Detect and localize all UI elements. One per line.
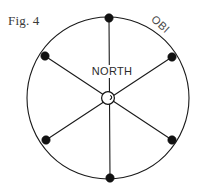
radial-diagram: NORTH OBI Fig. 4 — [0, 0, 198, 190]
node-lower-left — [42, 136, 50, 144]
node-top — [105, 14, 113, 22]
node-bottom — [106, 174, 114, 182]
node-lower-right — [168, 136, 176, 144]
arc-label-obi: OBI — [149, 13, 172, 35]
figure-caption: Fig. 4 — [8, 13, 40, 28]
figure-container: NORTH OBI Fig. 4 — [0, 0, 198, 190]
node-upper-right — [168, 53, 176, 61]
node-upper-left — [41, 52, 49, 60]
center-label: NORTH — [92, 65, 132, 77]
center-hub — [102, 92, 115, 105]
